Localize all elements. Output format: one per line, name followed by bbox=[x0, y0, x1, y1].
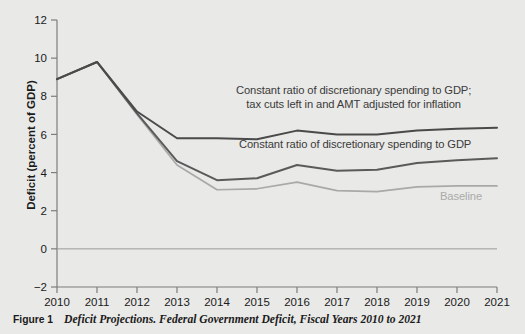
annotation-middle-scenario: Constant ratio of discretionary spending… bbox=[239, 138, 471, 150]
y-tick-label: 10 bbox=[34, 52, 47, 64]
x-tick-label: 2013 bbox=[164, 296, 190, 308]
annotation-baseline: Baseline bbox=[440, 190, 482, 202]
chart-plot-area: −202468101220102011201220132014201520162… bbox=[0, 0, 525, 334]
figure-container: Deficit (percent of GDP) −20246810122010… bbox=[0, 0, 525, 334]
annotation-upper-line2: tax cuts left in and AMT adjusted for in… bbox=[236, 98, 471, 112]
annotation-upper-scenario: Constant ratio of discretionary spending… bbox=[236, 84, 471, 111]
axes bbox=[57, 20, 497, 287]
x-tick-label: 2015 bbox=[244, 296, 270, 308]
x-tick-label: 2021 bbox=[484, 296, 510, 308]
x-tick-label: 2011 bbox=[85, 296, 110, 308]
y-tick-label: 0 bbox=[41, 243, 47, 255]
x-tick-label: 2019 bbox=[404, 296, 430, 308]
caption-figure-number: Figure 1 bbox=[13, 314, 53, 325]
y-tick-label: 4 bbox=[41, 167, 48, 179]
x-tick-label: 2018 bbox=[364, 296, 390, 308]
x-tick-label: 2016 bbox=[284, 296, 310, 308]
y-tick-label: 8 bbox=[41, 90, 47, 102]
x-tick-label: 2017 bbox=[324, 296, 350, 308]
y-tick-label: 12 bbox=[34, 14, 47, 26]
x-tick-label: 2010 bbox=[44, 296, 70, 308]
y-tick-label: 2 bbox=[41, 205, 47, 217]
x-ticks: 2010201120122013201420152016201720182019… bbox=[44, 287, 510, 308]
figure-caption: Figure 1Deficit Projections. Federal Gov… bbox=[13, 313, 422, 326]
x-tick-label: 2014 bbox=[204, 296, 230, 308]
x-tick-label: 2020 bbox=[444, 296, 470, 308]
data-series-line bbox=[57, 62, 497, 180]
y-tick-label: −2 bbox=[34, 281, 47, 293]
y-ticks: −2024681012 bbox=[34, 14, 57, 293]
annotation-upper-line1: Constant ratio of discretionary spending… bbox=[236, 84, 471, 98]
caption-figure-text: Deficit Projections. Federal Government … bbox=[53, 313, 422, 326]
y-tick-label: 6 bbox=[41, 129, 47, 141]
x-tick-label: 2012 bbox=[124, 296, 150, 308]
